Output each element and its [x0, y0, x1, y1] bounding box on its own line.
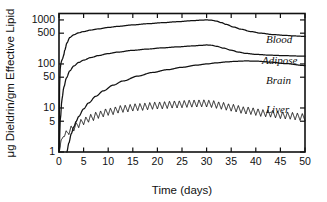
y-tick-label: 1: [49, 145, 55, 157]
series-label-liver: Liver: [265, 103, 290, 115]
x-tick-label: 25: [176, 155, 188, 167]
y-tick-label: 500: [37, 26, 55, 38]
x-tick-label: 10: [102, 155, 114, 167]
series-label-blood: Blood: [266, 33, 293, 45]
y-axis-tick-labels: 1510501005001000: [32, 13, 56, 157]
x-tick-label: 5: [81, 155, 87, 167]
x-tick-label: 45: [275, 155, 287, 167]
y-tick-label: 100: [37, 57, 55, 69]
series-label-group: Blood Adipose Brain Liver: [261, 33, 298, 115]
chart-canvas: 05101520253035404550 1510501005001000 Bl…: [0, 0, 327, 202]
x-tick-label: 15: [127, 155, 139, 167]
y-axis-title: μg Dieldrin/gm Effective Lipid: [4, 9, 16, 158]
y-tick-label: 5: [49, 115, 55, 127]
y-tick-label: 1000: [32, 13, 56, 25]
y-tick-label: 10: [43, 101, 55, 113]
figure-container: 05101520253035404550 1510501005001000 Bl…: [0, 0, 327, 202]
series-label-adipose: Adipose: [261, 54, 298, 66]
x-tick-label: 40: [250, 155, 262, 167]
x-axis-tick-labels: 05101520253035404550: [56, 155, 311, 167]
x-tick-label: 20: [152, 155, 164, 167]
x-tick-label: 30: [201, 155, 213, 167]
x-tick-label: 0: [56, 155, 62, 167]
x-tick-label: 50: [299, 155, 311, 167]
y-tick-label: 50: [43, 70, 55, 82]
x-tick-label: 35: [225, 155, 237, 167]
series-label-brain: Brain: [266, 74, 292, 86]
x-axis-title: Time (days): [152, 184, 212, 196]
